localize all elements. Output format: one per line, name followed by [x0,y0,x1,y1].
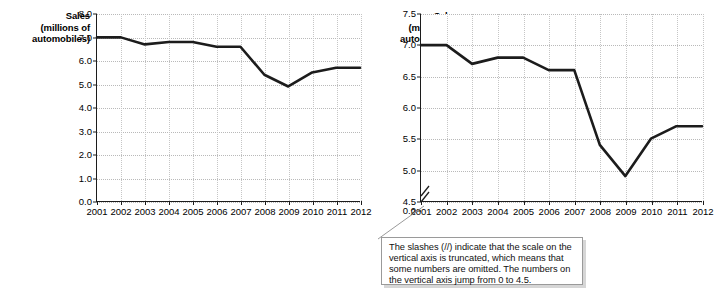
data-series-left [97,14,360,201]
y-axis-tick-label: 4.0 [79,103,92,113]
x-axis-tick-mark [337,201,338,205]
y-axis-tick-label: 3.0 [79,127,92,137]
x-axis-tick-mark [241,201,242,205]
y-axis-caption-line-2: (millions of [0,22,90,34]
x-axis-tick-label: 2010 [302,207,323,217]
y-axis-tick-label: 6.5 [403,72,416,82]
gridline-horizontal [97,202,360,203]
y-axis-tick-label: 5.0 [79,80,92,90]
x-axis-tick-mark [121,201,122,205]
x-axis-tick-mark [313,201,314,205]
y-axis-tick-label: 7.0 [79,33,92,43]
x-axis-tick-label: 2004 [158,207,179,217]
x-axis-tick-label: 2006 [206,207,227,217]
x-axis-tick-mark [626,201,627,205]
axis-truncation-slashes-icon [420,182,436,208]
callout-text: The slashes (//) indicate that the scale… [389,242,576,286]
x-axis-tick-label: 2012 [692,207,713,217]
y-axis-tick-label: 6.0 [79,56,92,66]
x-axis-tick-label: 2008 [254,207,275,217]
y-axis-caption-left: Sales (millions of automobiles) [0,10,90,45]
x-axis-tick-mark [472,201,473,205]
gridline-vertical [361,14,362,201]
chart-right: Sales (millions of automobiles) 7.57.06.… [368,0,714,225]
x-axis-tick-mark [652,201,653,205]
gridline-horizontal [421,202,702,203]
y-axis-tick-label: 8.0 [79,9,92,19]
x-axis-tick-mark [361,201,362,205]
y-axis-tick-label: 1.0 [79,174,92,184]
y-axis-tick-label: 6.0 [403,103,416,113]
x-axis-tick-mark [265,201,266,205]
x-axis-tick-mark [524,201,525,205]
x-axis-tick-mark [145,201,146,205]
x-axis-tick-label: 2007 [230,207,251,217]
x-axis-tick-mark [97,201,98,205]
x-axis-tick-label: 2011 [327,207,347,217]
x-axis-tick-label: 2003 [134,207,155,217]
plot-area-left: 8.07.06.05.04.03.02.01.00.0 200120022003… [96,14,360,202]
callout-box: The slashes (//) indicate that the scale… [381,237,583,285]
gridline-vertical [703,14,704,201]
chart-left: Sales (millions of automobiles) 8.07.06.… [0,0,368,225]
x-axis-tick-mark [217,201,218,205]
x-axis-tick-label: 2002 [110,207,131,217]
y-axis-tick-label: 7.5 [403,9,416,19]
x-axis-tick-mark [169,201,170,205]
data-series-right [421,14,702,201]
plot-area-right: 7.57.06.56.05.55.04.50.0 200120022003200… [420,14,702,202]
x-axis-tick-label: 2003 [462,207,483,217]
callout-pointer-line [376,206,426,240]
x-axis-tick-mark [193,201,194,205]
x-axis-tick-label: 2002 [436,207,457,217]
x-axis-tick-mark [289,201,290,205]
x-axis-tick-label: 2007 [564,207,585,217]
x-axis-tick-mark [498,201,499,205]
x-axis-tick-label: 2010 [641,207,662,217]
y-axis-caption-line-3: automobiles) [0,33,90,45]
x-axis-tick-mark [677,201,678,205]
x-axis-tick-label: 2005 [182,207,203,217]
y-axis-tick-label: 2.0 [79,150,92,160]
y-axis-caption-line-1: Sales [0,10,90,22]
x-axis-tick-mark [549,201,550,205]
x-axis-tick-mark [575,201,576,205]
x-axis-tick-label: 2006 [539,207,560,217]
x-axis-tick-label: 2009 [278,207,299,217]
x-axis-tick-label: 2004 [487,207,508,217]
x-axis-tick-mark [703,201,704,205]
x-axis-tick-label: 2001 [86,207,107,217]
x-axis-tick-label: 2005 [513,207,534,217]
x-axis-tick-mark [447,201,448,205]
y-axis-tick-label: 7.0 [403,41,416,51]
y-axis-tick-label: 5.0 [403,166,416,176]
x-axis-tick-label: 2009 [616,207,637,217]
y-axis-tick-label: 5.5 [403,135,416,145]
x-axis-tick-label: 2008 [590,207,611,217]
x-axis-tick-label: 2011 [667,207,687,217]
x-axis-tick-mark [600,201,601,205]
